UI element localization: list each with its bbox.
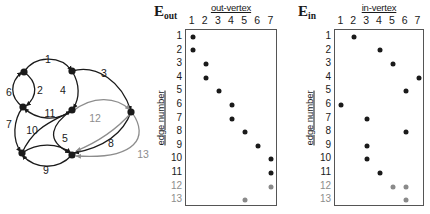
eout-panel: Eout out-vertex 1234567 edge number 1234… bbox=[152, 0, 294, 214]
graph-vertex-6 bbox=[68, 151, 75, 158]
ein-row-label-11: 11 bbox=[312, 165, 331, 179]
eout-plot-box bbox=[185, 29, 277, 206]
ein-dot-e12-v5 bbox=[390, 184, 395, 189]
graph-edge-label-2: 2 bbox=[37, 84, 43, 96]
eout-column-label-5: 5 bbox=[238, 14, 251, 26]
graph-edge-label-3: 3 bbox=[101, 67, 107, 79]
directed-graph-drawing bbox=[0, 0, 158, 214]
eout-row-label-2: 2 bbox=[163, 43, 182, 57]
eout-row-label-13: 13 bbox=[163, 192, 182, 206]
graph-vertex-4 bbox=[68, 106, 75, 113]
eout-row-label-12: 12 bbox=[163, 179, 182, 193]
graph-edge-label-4: 4 bbox=[60, 84, 66, 96]
ein-row-label-1: 1 bbox=[312, 29, 331, 43]
eout-column-title: out-vertex bbox=[211, 2, 251, 13]
ein-column-label-7: 7 bbox=[411, 14, 424, 26]
ein-row-label-12: 12 bbox=[312, 179, 331, 193]
ein-dot-e5-v6 bbox=[403, 89, 408, 94]
graph-edge-4 bbox=[72, 71, 78, 109]
graph-edge-label-7: 7 bbox=[6, 118, 12, 130]
ein-dot-e2-v4 bbox=[378, 48, 383, 53]
eout-row-label-8: 8 bbox=[163, 124, 182, 138]
ein-symbol: Ein bbox=[298, 4, 316, 19]
ein-column-label-6: 6 bbox=[398, 14, 411, 26]
eout-row-label-5: 5 bbox=[163, 83, 182, 97]
ein-dot-e1-v2 bbox=[352, 34, 357, 39]
eout-row-labels: 12345678910111213 bbox=[163, 29, 182, 206]
graph-edge-8 bbox=[74, 112, 131, 153]
ein-row-label-3: 3 bbox=[312, 56, 331, 70]
ein-column-title: in-vertex bbox=[362, 2, 397, 13]
graph-edge-12b bbox=[76, 113, 131, 151]
graph-vertex-2 bbox=[68, 67, 75, 74]
ein-column-labels: 1234567 bbox=[334, 14, 424, 26]
eout-dot-e11-v7 bbox=[269, 170, 274, 175]
ein-column-label-4: 4 bbox=[373, 14, 386, 26]
graph-edge-2 bbox=[24, 72, 35, 106]
graph-edge-6 bbox=[13, 72, 23, 107]
ein-row-label-5: 5 bbox=[312, 83, 331, 97]
ein-dot-e9-v3 bbox=[365, 143, 370, 148]
graph-edge-label-11: 11 bbox=[45, 107, 56, 119]
eout-column-label-3: 3 bbox=[211, 14, 224, 26]
ein-symbol-letter: E bbox=[298, 3, 308, 19]
ein-row-label-10: 10 bbox=[312, 151, 331, 165]
eout-symbol-subscript: out bbox=[164, 11, 177, 21]
eout-column-label-6: 6 bbox=[251, 14, 264, 26]
ein-column-label-5: 5 bbox=[385, 14, 398, 26]
eout-dot-e9-v6 bbox=[256, 143, 261, 148]
ein-dot-e3-v5 bbox=[390, 62, 395, 67]
eout-row-label-1: 1 bbox=[163, 29, 182, 43]
eout-column-label-1: 1 bbox=[185, 14, 198, 26]
eout-dot-e3-v2 bbox=[203, 62, 208, 67]
eout-row-label-4: 4 bbox=[163, 70, 182, 84]
eout-row-label-11: 11 bbox=[163, 165, 182, 179]
eout-dot-e7-v4 bbox=[230, 116, 235, 121]
eout-dot-e4-v2 bbox=[203, 75, 208, 80]
ein-panel: Ein in-vertex 1234567 edge number 123456… bbox=[292, 0, 430, 214]
eout-row-label-7: 7 bbox=[163, 111, 182, 125]
ein-dot-e12-v6 bbox=[403, 184, 408, 189]
eout-dot-e10-v7 bbox=[269, 157, 274, 162]
ein-symbol-subscript: in bbox=[308, 11, 316, 21]
eout-column-label-2: 2 bbox=[198, 14, 211, 26]
graph-edge-label-10: 10 bbox=[26, 124, 38, 136]
ein-column-label-1: 1 bbox=[334, 14, 347, 26]
ein-dot-e11-v4 bbox=[378, 170, 383, 175]
eout-column-label-7: 7 bbox=[264, 14, 277, 26]
ein-dot-e10-v3 bbox=[365, 157, 370, 162]
ein-column-label-2: 2 bbox=[347, 14, 360, 26]
eout-dot-e5-v3 bbox=[216, 89, 221, 94]
ein-row-label-8: 8 bbox=[312, 124, 331, 138]
eout-column-labels: 1234567 bbox=[185, 14, 277, 26]
eout-row-label-9: 9 bbox=[163, 138, 182, 152]
ein-row-label-4: 4 bbox=[312, 70, 331, 84]
ein-dot-e8-v6 bbox=[403, 130, 408, 135]
graph-edge-label-6: 6 bbox=[6, 86, 12, 98]
graph-edge-label-9: 9 bbox=[43, 164, 49, 176]
ein-row-label-13: 13 bbox=[312, 192, 331, 206]
graph-panel: 12345678910111213 bbox=[0, 0, 158, 214]
eout-symbol: Eout bbox=[154, 4, 177, 19]
eout-symbol-letter: E bbox=[154, 3, 164, 19]
ein-dot-e13-v6 bbox=[403, 198, 408, 203]
eout-dot-e12-v7 bbox=[269, 184, 274, 189]
eout-dot-e13-v5 bbox=[243, 198, 248, 203]
eout-dot-e1-v1 bbox=[190, 34, 195, 39]
eout-column-label-4: 4 bbox=[224, 14, 237, 26]
graph-edge-label-5: 5 bbox=[62, 132, 68, 144]
ein-dot-e7-v3 bbox=[365, 116, 370, 121]
ein-dot-e6-v1 bbox=[339, 102, 344, 107]
graph-edge-label-8: 8 bbox=[108, 137, 114, 149]
ein-dot-e4-v7 bbox=[416, 75, 421, 80]
graph-edge-5b bbox=[22, 145, 71, 153]
graph-vertex-3 bbox=[19, 103, 26, 110]
graph-edge-label-12: 12 bbox=[89, 112, 101, 124]
eout-dot-e6-v4 bbox=[230, 102, 235, 107]
graph-vertex-7 bbox=[127, 108, 134, 115]
ein-row-label-9: 9 bbox=[312, 138, 331, 152]
ein-column-label-3: 3 bbox=[360, 14, 373, 26]
ein-row-label-7: 7 bbox=[312, 111, 331, 125]
eout-row-label-10: 10 bbox=[163, 151, 182, 165]
graph-vertex-1 bbox=[20, 68, 27, 75]
